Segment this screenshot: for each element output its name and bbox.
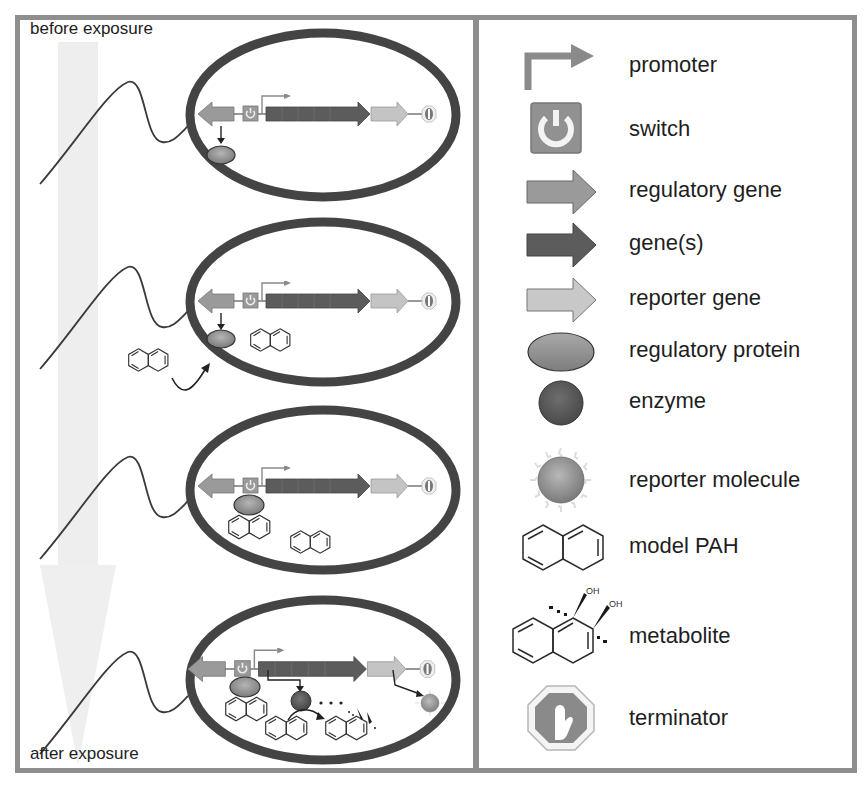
legend-item-enzyme: enzyme: [479, 378, 847, 428]
stage-2-cell: [40, 222, 456, 390]
legend-label: terminator: [629, 705, 728, 731]
stage-1-cell: [40, 33, 456, 197]
stage-3-cell: [40, 410, 456, 570]
legend-label: reporter gene: [629, 285, 761, 311]
exposure-timeline-panel: before exposure after exposure: [20, 20, 473, 768]
reporter-gene-icon: [519, 275, 609, 325]
reporter-molecule-icon: [519, 445, 609, 515]
genes-icon: [519, 220, 609, 270]
legend-label: switch: [629, 116, 690, 142]
legend-panel: promoter switch regulatory gene gene(s) …: [479, 20, 847, 768]
legend-item-promoter: promoter: [479, 42, 847, 92]
oh-label-1: OH: [586, 586, 600, 596]
legend-item-terminator: terminator: [479, 683, 847, 753]
legend-label: enzyme: [629, 388, 706, 414]
before-exposure-label: before exposure: [30, 19, 153, 39]
legend-item-switch: switch: [479, 100, 847, 150]
legend-item-reporter-gene: reporter gene: [479, 275, 847, 325]
regulatory-protein-icon: [519, 327, 609, 377]
legend-item-metabolite: OH OH metabolite: [479, 585, 847, 665]
metabolite-icon: OH OH: [507, 585, 627, 665]
after-exposure-label: after exposure: [30, 744, 139, 764]
legend-item-model-pah: model PAH: [479, 523, 847, 573]
legend-item-genes: gene(s): [479, 220, 847, 270]
legend-label: regulatory gene: [629, 177, 782, 203]
legend-label: metabolite: [629, 623, 731, 649]
legend-label: reporter molecule: [629, 467, 800, 493]
legend-label: gene(s): [629, 230, 704, 256]
legend-label: promoter: [629, 52, 717, 78]
legend-label: model PAH: [629, 533, 739, 559]
legend-item-reporter-molecule: reporter molecule: [479, 445, 847, 515]
time-arrow: [40, 42, 116, 765]
switch-icon: [519, 100, 609, 156]
terminator-icon: [519, 683, 609, 753]
oh-label-2: OH: [609, 599, 623, 609]
legend-item-regulatory-protein: regulatory protein: [479, 327, 847, 377]
legend-label: regulatory protein: [629, 337, 800, 363]
enzyme-icon: [519, 378, 609, 428]
legend-item-regulatory-gene: regulatory gene: [479, 167, 847, 217]
regulatory-gene-icon: [519, 167, 609, 217]
promoter-icon: [519, 42, 609, 92]
model-pah-icon: [519, 523, 609, 573]
exposure-timeline-art: [20, 20, 473, 768]
